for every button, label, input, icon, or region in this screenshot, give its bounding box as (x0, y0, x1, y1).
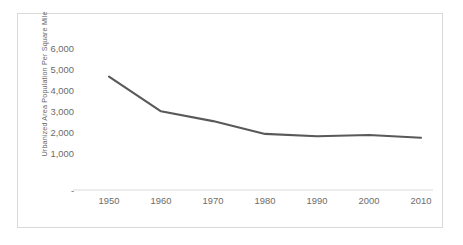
chart-figure: Urbanized Area Population Per Square Mil… (17, 13, 443, 228)
x-tick-label: 1990 (292, 195, 342, 206)
x-tick-label: 2000 (344, 195, 394, 206)
x-tick-label: 1970 (188, 195, 238, 206)
x-tick-label: 1960 (136, 195, 186, 206)
x-tick-label: 2010 (396, 195, 446, 206)
x-tick-label: 1980 (240, 195, 290, 206)
x-tick-label: 1950 (84, 195, 134, 206)
x-axis-tick-labels: 1950 1960 1970 1980 1990 2000 2010 (18, 14, 444, 229)
